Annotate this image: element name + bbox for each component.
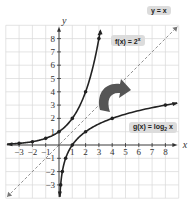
- data-point: [71, 143, 75, 147]
- y-tick-label: 3: [51, 100, 56, 110]
- data-point: [44, 137, 48, 141]
- data-point: [84, 130, 88, 134]
- x-tick-label: −2: [28, 147, 38, 157]
- curve-arrow-icon: [97, 29, 102, 35]
- x-tick-label: 2: [83, 147, 88, 157]
- y-axis-label: y: [61, 15, 67, 26]
- curve-arrow-icon: [58, 192, 62, 198]
- data-point: [31, 140, 35, 144]
- y-tick-label: −1: [45, 153, 55, 163]
- x-tick-label: 3: [97, 147, 102, 157]
- y-axis-arrow-icon: [57, 27, 61, 32]
- data-point: [17, 142, 21, 146]
- label-f-of-x: f(x) = 2x: [111, 35, 145, 46]
- y-tick-label: −3: [45, 180, 55, 190]
- y-tick-label: 8: [51, 34, 56, 44]
- x-axis-label: x: [182, 139, 188, 150]
- reflection-arrow-icon: [99, 79, 131, 112]
- data-point: [64, 157, 68, 161]
- data-point: [59, 183, 63, 187]
- data-point: [84, 90, 88, 94]
- y-tick-label: 4: [51, 87, 56, 97]
- y-tick-label: 7: [51, 47, 56, 57]
- data-point: [110, 117, 114, 121]
- arrowhead-icon: [172, 27, 177, 32]
- data-point: [57, 130, 61, 134]
- label-y-equals-x: y = x: [147, 6, 171, 15]
- curve-g-logarithmic: [60, 103, 177, 197]
- x-axis-arrow-icon: [172, 143, 177, 147]
- x-tick-label: 5: [123, 147, 128, 157]
- data-point: [97, 37, 101, 41]
- x-tick-label: 8: [163, 147, 168, 157]
- y-tick-label: 5: [51, 74, 56, 84]
- data-point: [71, 117, 75, 121]
- curve-arrow-icon: [6, 142, 12, 146]
- data-point: [164, 103, 168, 107]
- data-point: [61, 170, 65, 174]
- y-tick-label: 6: [51, 60, 56, 70]
- x-tick-label: 4: [110, 147, 115, 157]
- x-tick-label: 7: [150, 147, 155, 157]
- graph-plot: −3−2−112345678−3−2−112345678xy: [0, 0, 192, 207]
- y-tick-label: −2: [45, 167, 55, 177]
- x-tick-label: −3: [14, 147, 24, 157]
- label-g-of-x: g(x) = log2 x: [129, 122, 177, 133]
- y-tick-label: 2: [51, 113, 56, 123]
- x-tick-label: 6: [137, 147, 142, 157]
